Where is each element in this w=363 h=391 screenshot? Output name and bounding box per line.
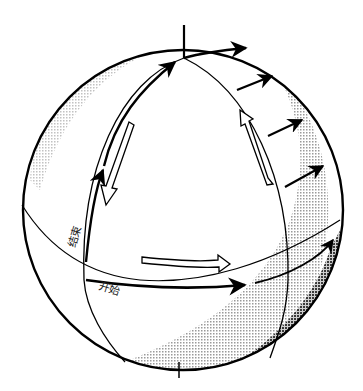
transported-vector-2 — [268, 120, 302, 136]
hollow-arrow-left-down — [101, 122, 134, 205]
up-meridian-arrow — [86, 170, 103, 262]
label-start: 开始 — [97, 279, 122, 299]
sphere-diagram: 结束 开始 — [0, 0, 363, 391]
hollow-arrow-right-up — [240, 110, 273, 185]
hollow-arrow-bottom-right — [142, 255, 230, 272]
sphere-shading — [30, 52, 340, 372]
up-meridian-arrow-2 — [104, 62, 175, 166]
label-end: 结束 — [65, 224, 84, 249]
transported-vector-1 — [237, 76, 272, 90]
